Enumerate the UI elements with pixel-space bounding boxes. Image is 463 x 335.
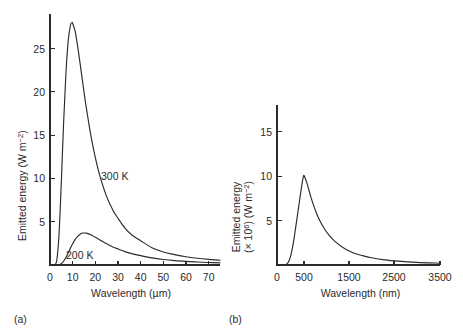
x-tick-label: 2500: [382, 272, 405, 283]
curve-300k: [55, 22, 220, 264]
y-tick-label: 15: [253, 126, 272, 137]
panel-b-y-axis-title-exp1: 6: [242, 225, 251, 229]
curve-label-300k: 300 K: [101, 170, 128, 182]
panel-b-y-axis-title-line2-c: ): [242, 181, 254, 185]
curve-solar: [285, 175, 440, 264]
y-tick-label: 20: [26, 87, 45, 98]
y-tick-label: 10: [253, 171, 272, 182]
panel-a-y-axis-title-text: Emitted energy (W m: [16, 142, 28, 241]
x-tick-label: 3500: [428, 272, 451, 283]
panel-a-y-axis-title-exponent: −2: [16, 134, 25, 143]
panel-b-y-axis-title-line2-a: (× 10: [242, 229, 254, 253]
y-tick-label: 5: [26, 216, 45, 227]
panel-a-axes: [50, 14, 220, 265]
panel-a-y-axis-title: Emitted energy (W m−2): [16, 130, 28, 241]
x-tick-label: 1500: [337, 272, 360, 283]
panel-a-x-axis-title: Wavelength (µm): [91, 287, 171, 299]
y-tick-label: 10: [26, 173, 45, 184]
panel-b-ticks: [277, 132, 440, 265]
x-tick-label: 50: [157, 272, 169, 283]
x-tick-label: 20: [89, 272, 101, 283]
blackbody-radiation-figure: 010203040506070 510152025 Wavelength (µm…: [0, 0, 463, 335]
x-tick-label: 10: [67, 272, 79, 283]
x-tick-label: 40: [135, 272, 147, 283]
panel-b-y-axis-title-line2-b: ) (W m: [242, 193, 254, 225]
x-tick-label: 500: [295, 272, 313, 283]
y-tick-label: 5: [253, 215, 272, 226]
panel-b-x-axis-title: Wavelength (nm): [321, 287, 401, 299]
panel-b-caption: (b): [229, 313, 242, 325]
panel-b-y-axis-title-line2: (× 106) (W m−2): [242, 181, 254, 253]
panel-a: 010203040506070 510152025 Wavelength (µm…: [0, 0, 230, 335]
panel-b-y-axis-title: Emitted energy(× 106) (W m−2): [230, 181, 254, 253]
x-tick-label: 0: [274, 272, 280, 283]
x-tick-label: 30: [112, 272, 124, 283]
panel-b-plot: [228, 0, 463, 300]
y-tick-label: 25: [26, 43, 45, 54]
panel-b: 0500150025003500 51015 Wavelength (nm) E…: [228, 0, 463, 335]
curve-label-200k: 200 K: [66, 249, 93, 261]
panel-a-caption: (a): [14, 313, 27, 325]
x-tick-label: 60: [180, 272, 192, 283]
panel-b-y-axis-title-line1: Emitted energy: [230, 182, 242, 253]
panel-b-y-axis-title-exp2: −2: [242, 184, 251, 193]
panel-a-y-axis-title-tail: ): [16, 130, 28, 134]
y-tick-label: 15: [26, 130, 45, 141]
x-tick-label: 0: [47, 272, 53, 283]
x-tick-label: 70: [203, 272, 215, 283]
